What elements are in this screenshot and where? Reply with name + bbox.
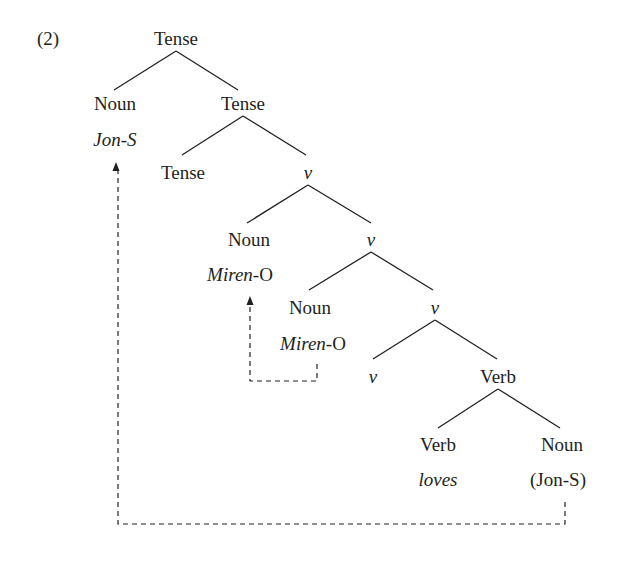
edge-v1-to-object-noun — [247, 185, 308, 223]
arrowhead-up-icon — [247, 296, 254, 305]
word-loves: loves — [418, 469, 457, 490]
node-v-head: v — [369, 366, 378, 387]
edge-verb-phrase-to-complement — [498, 389, 560, 428]
edge-verb-phrase-to-verb-head — [438, 389, 498, 428]
node-root-tense: Tense — [154, 28, 198, 49]
syntax-tree-diagram: (2) Tense Noun Jon-S Tense Tense v Noun … — [0, 0, 637, 561]
node-v2: v — [367, 229, 376, 250]
edge-v2-to-v3 — [371, 252, 433, 290]
edge-v1-to-v2 — [308, 185, 371, 223]
node-v3: v — [431, 297, 440, 318]
example-number: (2) — [37, 28, 59, 50]
word-miren-o: Miren-O — [206, 264, 273, 285]
edge-v3-to-v-head — [373, 320, 435, 359]
node-tense-head: Tense — [161, 162, 205, 183]
edge-v3-to-verb-phrase — [435, 320, 497, 359]
word-miren-o-low: Miren-O — [279, 333, 346, 354]
node-subject-noun: Noun — [94, 93, 137, 114]
node-v1: v — [304, 162, 313, 183]
arrowhead-up-icon — [113, 162, 120, 171]
node-complement-noun: Noun — [541, 434, 584, 455]
edge-tense-bar-to-tense-head — [182, 116, 243, 155]
node-object-noun: Noun — [228, 229, 271, 250]
edge-v2-to-object-noun-low — [309, 252, 371, 290]
edge-root-to-noun — [114, 51, 176, 90]
tree-nodes: Tense Noun Jon-S Tense Tense v Noun Mire… — [93, 28, 586, 491]
word-jon-s-trace: (Jon-S) — [530, 469, 586, 491]
node-tense-bar: Tense — [221, 93, 265, 114]
node-object-noun-low: Noun — [289, 297, 332, 318]
node-verb-phrase: Verb — [480, 366, 516, 387]
node-verb-head: Verb — [420, 434, 456, 455]
edge-root-to-tense-bar — [176, 51, 238, 90]
edge-tense-bar-to-v1 — [243, 116, 306, 155]
word-jon-s: Jon-S — [93, 129, 137, 150]
